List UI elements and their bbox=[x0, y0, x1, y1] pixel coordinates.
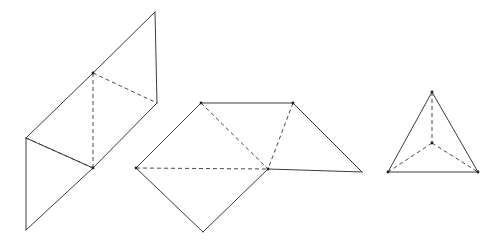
right-shape-vertex-dot-3 bbox=[431, 142, 434, 145]
middle-shape-vertex-dot-0 bbox=[200, 102, 203, 105]
middle-shape-vertex-dot-2 bbox=[267, 168, 270, 171]
figure-canvas bbox=[0, 0, 504, 245]
figure-background bbox=[0, 0, 504, 245]
middle-shape-vertex-dot-1 bbox=[292, 102, 295, 105]
middle-shape-vertex-dot-3 bbox=[135, 167, 138, 170]
left-shape-vertex-dot-1 bbox=[92, 167, 95, 170]
right-shape-vertex-dot-1 bbox=[387, 171, 390, 174]
right-shape-vertex-dot-0 bbox=[431, 91, 434, 94]
right-shape-vertex-dot-2 bbox=[477, 171, 480, 174]
left-shape-vertex-dot-0 bbox=[92, 72, 95, 75]
